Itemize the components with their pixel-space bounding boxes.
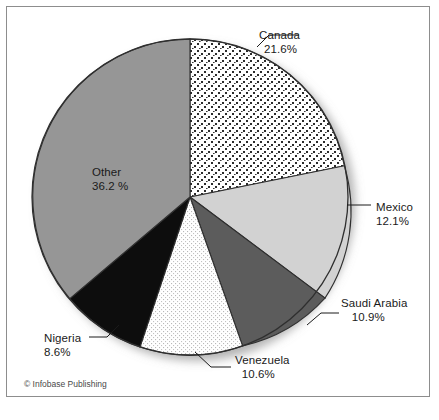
- slice-label-venezuela-name: Venezuela: [235, 354, 290, 366]
- figure-frame: Canada 21.6% Mexico 12.1% Saudi Arabia 1…: [6, 6, 430, 397]
- slice-label-saudi-arabia-value: 10.9%: [341, 311, 407, 325]
- slice-label-nigeria: Nigeria 8.6%: [44, 332, 85, 359]
- slice-label-other-value: 36.2 %: [92, 180, 128, 194]
- slice-label-canada-name: Canada: [259, 29, 300, 41]
- leader-line-saudi-arabia: [307, 313, 339, 325]
- slice-label-saudi-arabia-name: Saudi Arabia: [341, 297, 407, 309]
- slice-label-venezuela: Venezuela 10.6%: [235, 354, 290, 381]
- slice-label-canada: Canada 21.6%: [259, 29, 300, 56]
- slice-label-mexico: Mexico 12.1%: [376, 201, 413, 228]
- slice-label-canada-value: 21.6%: [259, 43, 300, 57]
- slice-label-nigeria-value: 8.6%: [44, 346, 85, 360]
- pie-chart-figure: Canada 21.6% Mexico 12.1% Saudi Arabia 1…: [0, 0, 439, 420]
- publisher-credit: © Infobase Publishing: [24, 379, 107, 389]
- slice-label-nigeria-name: Nigeria: [44, 332, 81, 344]
- slice-label-saudi-arabia: Saudi Arabia 10.9%: [341, 297, 407, 324]
- slice-label-mexico-name: Mexico: [376, 201, 413, 213]
- slice-label-venezuela-value: 10.6%: [235, 368, 290, 382]
- slice-label-other: Other 36.2 %: [92, 166, 128, 193]
- slice-label-other-name: Other: [92, 166, 121, 178]
- slice-label-mexico-value: 12.1%: [376, 215, 413, 229]
